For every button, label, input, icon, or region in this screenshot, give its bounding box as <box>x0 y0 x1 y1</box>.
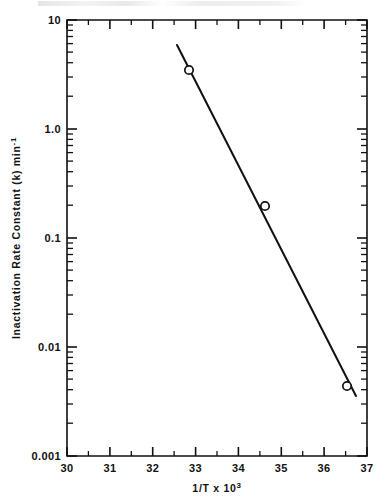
x-tick-label: 33 <box>189 462 202 474</box>
x-tick-label: 32 <box>146 462 159 474</box>
x-axis-title-text: 1/T x 10 <box>192 482 236 494</box>
y-axis-title-text: Inactivation Rate Constant (k) min <box>10 145 22 339</box>
y-axis-tick-labels: 10 1.0 0.1 0.01 0.001 <box>31 14 61 462</box>
fit-line <box>177 45 356 396</box>
data-point <box>185 66 193 74</box>
data-point <box>343 382 351 390</box>
arrhenius-plot-figure: 10 1.0 0.1 0.01 0.001 30 31 32 33 34 35 … <box>0 0 388 500</box>
y-axis-right-minor-ticks <box>361 25 367 423</box>
x-tick-label: 37 <box>360 462 373 474</box>
y-axis-right-major-ticks <box>357 20 367 456</box>
x-axis-title-exponent: 3 <box>236 481 241 490</box>
x-axis-tick-labels: 30 31 32 33 34 35 36 37 <box>60 462 373 474</box>
y-axis-title: Inactivation Rate Constant (k) min-1 <box>9 137 22 339</box>
y-tick-label: 10 <box>48 14 61 26</box>
x-tick-label: 34 <box>232 462 246 474</box>
data-point <box>261 202 269 210</box>
axis-frame-path <box>67 20 367 456</box>
y-tick-label: 0.01 <box>38 341 61 353</box>
y-axis-major-ticks <box>67 20 77 456</box>
y-axis-minor-ticks <box>67 25 73 423</box>
plot-frame <box>67 20 367 456</box>
x-tick-label: 35 <box>275 462 288 474</box>
x-axis-title: 1/T x 103 <box>192 481 241 494</box>
y-axis-title-exponent: -1 <box>9 137 18 146</box>
y-tick-label: 0.1 <box>45 232 62 244</box>
data-points <box>185 66 351 390</box>
y-tick-label: 1.0 <box>45 123 62 135</box>
x-tick-label: 30 <box>60 462 73 474</box>
x-tick-label: 31 <box>103 462 116 474</box>
x-tick-label: 36 <box>318 462 331 474</box>
y-tick-label: 0.001 <box>31 450 61 462</box>
